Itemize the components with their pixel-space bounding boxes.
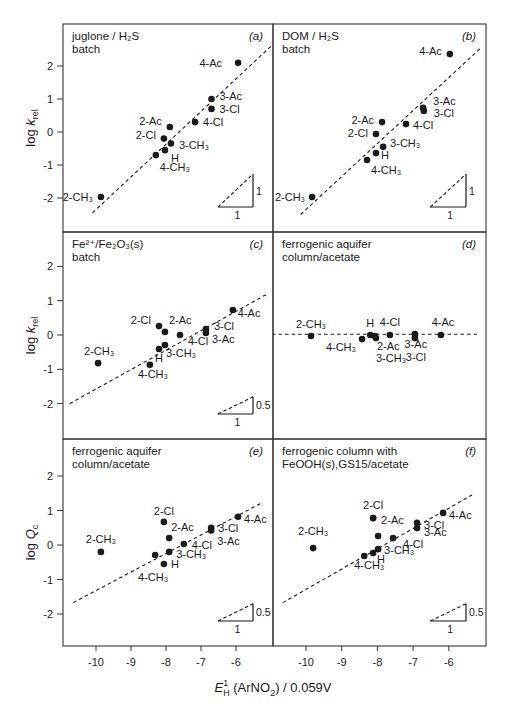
y-tick-label: -2 [43, 192, 53, 204]
data-point-label: 3-CH₃ [384, 544, 414, 556]
y-tick-label: 0 [47, 539, 53, 551]
panel-frame [273, 439, 486, 646]
panel-tag: (b) [462, 30, 476, 42]
data-point [421, 108, 428, 115]
data-point-label: 3-Cl [434, 107, 454, 119]
data-point-label: 3-Cl [220, 103, 240, 115]
panel-title-line: FeOOH(s),GS15/acetate [282, 458, 409, 470]
panel-title-line: juglone / H₂S [71, 30, 139, 42]
slope-run-label: 1 [235, 623, 241, 635]
data-point [373, 150, 380, 157]
slope-run-label: 1 [447, 209, 453, 221]
x-tick-label: -7 [408, 656, 418, 668]
slope-rise-label: 1 [469, 185, 475, 197]
slope-hyp [430, 604, 466, 621]
data-point-label: 3-CH₃ [176, 548, 206, 560]
data-point [447, 51, 454, 58]
slope-triangle: 11 [218, 174, 262, 221]
data-point [440, 510, 447, 517]
data-point [370, 515, 377, 522]
x-tick-label: -8 [373, 656, 383, 668]
data-point-label: 4-Ac [449, 509, 472, 521]
data-point-label: 4-Cl [203, 116, 223, 128]
y-tick-label: 1 [47, 93, 53, 105]
data-point [438, 332, 445, 339]
data-point-label: 4-Ac [238, 307, 261, 319]
y-tick-label: -2 [43, 398, 53, 410]
data-point [310, 545, 317, 552]
data-point [403, 121, 410, 128]
data-point-label: 4-CH₃ [371, 164, 401, 176]
data-point [375, 533, 382, 540]
data-point-label: 4-CH₃ [138, 571, 168, 583]
data-point-label: 3-CH₃ [166, 347, 196, 359]
data-point [152, 552, 159, 559]
data-point [373, 335, 380, 342]
data-point-label: 3-Ac [217, 535, 240, 547]
data-point-label: 3-Ac [424, 526, 447, 538]
y-tick-label: 2 [47, 260, 53, 272]
data-point-label: 2-CH₃ [275, 191, 305, 203]
x-tick-label: -10 [88, 656, 104, 668]
data-point-label: 4-CH₃ [160, 161, 190, 173]
panel-tag: (a) [249, 30, 263, 42]
data-point-label: 4-Cl [380, 316, 400, 328]
data-point [208, 96, 215, 103]
data-point-label: 3-CH₃ [179, 139, 209, 151]
data-point-label: 2-Cl [363, 499, 383, 511]
y-axis-label: log Qc [23, 524, 40, 560]
panel-title-line: ferrogenic aquifer [72, 445, 162, 457]
data-point [95, 360, 102, 367]
y-axis-label: log krel [23, 317, 40, 354]
data-point-label: 2-CH₃ [296, 318, 326, 330]
y-axis-label: log krel [23, 109, 40, 146]
data-point-label: 4-Ac [419, 45, 442, 57]
data-point [379, 119, 386, 126]
y-tick-label: 2 [47, 470, 53, 482]
data-point-label: 2-Ac [377, 340, 400, 352]
data-point [98, 549, 105, 556]
data-point-label: H [171, 558, 179, 570]
data-point-label: 3-Cl [214, 320, 234, 332]
data-point [235, 513, 242, 520]
data-point-label: 4-Ac [432, 316, 455, 328]
panel-b: DOM / H₂Sbatch(b)4-Ac3-Ac3-Cl4-Cl2-Ac2-C… [273, 24, 486, 232]
data-point-label: 2-CH₃ [63, 191, 93, 203]
panel-title-line: DOM / H₂S [282, 30, 339, 42]
slope-triangle: 10.5 [218, 397, 271, 428]
data-point [177, 332, 184, 339]
x-tick-label: -6 [444, 656, 454, 668]
data-point [208, 527, 215, 534]
data-point [390, 535, 397, 542]
data-point-label: 4-CH₃ [138, 368, 168, 380]
data-point-label: 2-Ac [381, 514, 404, 526]
data-point [168, 140, 175, 147]
data-point [208, 106, 215, 113]
regression-line [93, 46, 272, 213]
x-tick-label: -9 [126, 656, 136, 668]
data-point [235, 59, 242, 66]
panel-title-line: Fe²⁺/Fe₂O₃(s) [72, 238, 144, 250]
y-tick-label: 0 [47, 329, 53, 341]
data-point-label: 3-Ac [212, 333, 235, 345]
panel-title-line: ferrogenic column with [282, 445, 397, 457]
data-point [414, 525, 421, 532]
data-point [167, 124, 174, 131]
panel-tag: (c) [250, 238, 264, 250]
y-tick-label: 1 [47, 295, 53, 307]
data-point [364, 157, 371, 164]
x-tick-label: -9 [337, 656, 347, 668]
slope-triangle: 11 [430, 174, 475, 221]
data-point-label: H [155, 352, 163, 364]
slope-run-label: 1 [447, 623, 453, 635]
panel-tag: (d) [462, 238, 476, 250]
panel-title-line: column/acetate [282, 251, 360, 263]
x-tick-label: -10 [298, 656, 314, 668]
slope-hyp [218, 397, 253, 414]
data-point-label: 3-CH₃ [376, 352, 406, 364]
slope-hyp [430, 174, 466, 207]
y-tick-label: 0 [47, 126, 53, 138]
panel-title-line: ferrogenic aquifer [282, 238, 372, 250]
x-tick-label: -6 [231, 656, 241, 668]
data-point-label: 2-Cl [348, 127, 368, 139]
